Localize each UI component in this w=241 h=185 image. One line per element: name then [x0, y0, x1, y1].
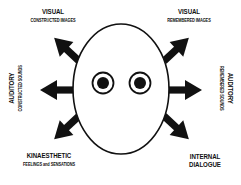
label-sub: REMEMBERED SOUNDS — [220, 57, 225, 119]
arrow-left-icon — [40, 80, 74, 100]
label-sub: REMEMBERED IMAGES — [162, 18, 217, 23]
label-main: VISUAL — [24, 8, 81, 16]
label-auditory-remembered: AUDITORY REMEMBERED SOUNDS — [220, 48, 235, 128]
label-sub: FEELINGS and SENSATIONS — [17, 162, 81, 167]
label-main: VISUAL — [160, 8, 217, 16]
label-sub: CONSTRUCTED IMAGES — [26, 18, 81, 23]
face-outline — [73, 24, 169, 154]
label-main: AUDITORY — [227, 55, 235, 121]
left-eye-icon — [93, 73, 114, 94]
label-sub: CONSTRUCTED SOUNDS — [17, 57, 22, 119]
right-eye-icon — [130, 73, 151, 94]
label-internal-dialogue: INTERNAL DIALOGUE — [180, 153, 230, 170]
label-visual-remembered: VISUAL REMEMBERED IMAGES — [154, 8, 224, 23]
label-visual-constructed: VISUAL CONSTRUCTED IMAGES — [18, 8, 88, 23]
label-auditory-constructed: AUDITORY CONSTRUCTED SOUNDS — [8, 48, 23, 128]
label-main: INTERNAL DIALOGUE — [185, 153, 226, 170]
label-main: AUDITORY — [8, 55, 16, 121]
label-main: KINAESTHETIC — [15, 152, 82, 160]
arrow-right-icon — [168, 80, 202, 100]
label-kinaesthetic: KINAESTHETIC FEELINGS and SENSATIONS — [8, 152, 90, 167]
